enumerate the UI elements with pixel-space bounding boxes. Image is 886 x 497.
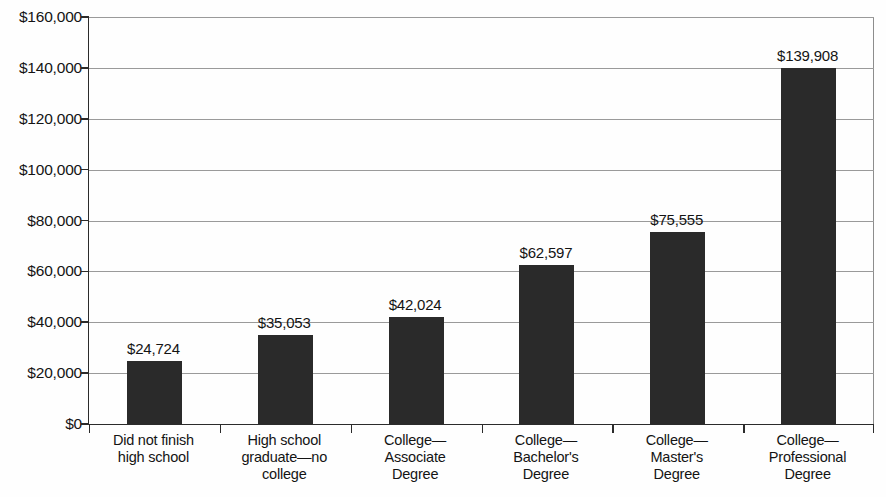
y-axis-tick-mark: [81, 321, 89, 323]
bar-value-label: $75,555: [650, 212, 703, 227]
bar: [519, 265, 574, 424]
gridline: [89, 373, 874, 374]
y-axis-tick-label: $160,000: [0, 9, 82, 25]
bar-value-label: $62,597: [519, 245, 572, 260]
bar: [127, 361, 182, 424]
y-axis-tick-labels: $0$20,000$40,000$60,000$80,000$100,000$1…: [0, 0, 82, 497]
gridline: [89, 17, 874, 18]
y-axis-tick-mark: [81, 118, 89, 120]
bar-value-label: $35,053: [258, 315, 311, 330]
y-axis-tick-label: $60,000: [0, 264, 82, 280]
x-axis-category-label: College— Associate Degree: [353, 432, 478, 483]
y-axis-tick-mark: [81, 271, 89, 273]
y-axis-tick-mark: [81, 220, 89, 222]
gridline: [89, 170, 874, 171]
bar: [258, 335, 313, 424]
bar-value-label: $24,724: [127, 341, 180, 356]
gridline: [89, 271, 874, 272]
gridline: [89, 68, 874, 69]
y-axis-tick-label: $80,000: [0, 213, 82, 229]
y-axis-tick-label: $100,000: [0, 162, 82, 178]
y-axis-tick-label: $120,000: [0, 111, 82, 127]
x-axis-category-label: College— Master's Degree: [614, 432, 739, 483]
x-axis-category-label: College— Professional Degree: [745, 432, 870, 483]
bar-value-label: $42,024: [389, 297, 442, 312]
x-axis-category-labels: Did not finish high schoolHigh school gr…: [88, 432, 873, 496]
bar-chart: $0$20,000$40,000$60,000$80,000$100,000$1…: [0, 0, 886, 497]
y-axis-tick-mark: [81, 16, 89, 18]
gridline: [89, 119, 874, 120]
y-axis-tick-label: $140,000: [0, 60, 82, 76]
y-axis-tick-mark: [81, 372, 89, 374]
plot-area: [88, 17, 874, 425]
y-axis-tick-mark: [81, 169, 89, 171]
x-axis-category-label: College— Bachelor's Degree: [483, 432, 608, 483]
y-axis-tick-label: $40,000: [0, 315, 82, 331]
y-axis-tick-label: $0: [0, 416, 82, 432]
bar: [389, 317, 444, 424]
x-axis-category-label: High school graduate—no college: [222, 432, 347, 483]
bar-value-label: $139,908: [777, 48, 838, 63]
x-axis-category-label: Did not finish high school: [91, 432, 216, 466]
gridline: [89, 322, 874, 323]
bar: [650, 232, 705, 424]
bar: [781, 68, 836, 424]
y-axis-tick-mark: [81, 67, 89, 69]
gridline: [89, 221, 874, 222]
y-axis-tick-label: $20,000: [0, 365, 82, 381]
y-axis-tick-mark: [81, 423, 89, 425]
